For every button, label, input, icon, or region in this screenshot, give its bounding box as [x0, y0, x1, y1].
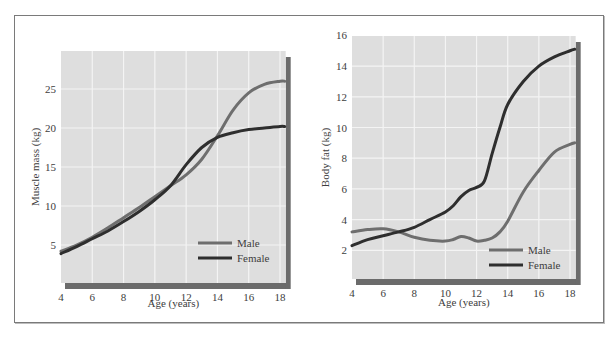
x-tick-label: 16: [243, 291, 255, 303]
x-tick-label: 8: [412, 287, 418, 299]
y-axis-label: Body fat (kg): [319, 128, 332, 188]
x-tick-label: 14: [212, 291, 224, 303]
x-tick-label: 6: [90, 291, 96, 303]
legend-label-female: Female: [528, 259, 560, 271]
legend-label-male: Male: [528, 244, 551, 256]
plot-area: [352, 36, 576, 279]
y-tick-label: 4: [342, 214, 348, 226]
y-tick-label: 25: [45, 83, 57, 95]
legend-label-female: Female: [237, 252, 269, 264]
x-tick-label: 4: [58, 291, 64, 303]
plot-shadow-bottom: [356, 279, 580, 285]
x-tick-label: 18: [565, 287, 577, 299]
y-tick-label: 2: [342, 244, 348, 256]
plot-shadow-right: [576, 42, 581, 285]
x-tick-label: 4: [349, 287, 355, 299]
y-tick-label: 8: [342, 152, 348, 164]
plot-shadow-right: [286, 57, 291, 289]
y-axis-label: Muscle mass (kg): [29, 128, 42, 207]
y-tick-label: 5: [51, 239, 57, 251]
y-tick-label: 10: [336, 122, 348, 134]
plot-shadow-bottom: [65, 283, 290, 289]
muscle-mass-chart: 4681012141618510152025Age (years)Muscle …: [29, 51, 291, 310]
y-tick-label: 12: [336, 91, 347, 103]
x-tick-label: 14: [502, 287, 514, 299]
x-tick-label: 16: [533, 287, 545, 299]
x-tick-label: 6: [380, 287, 386, 299]
x-tick-label: 8: [121, 291, 127, 303]
x-tick-label: 18: [275, 291, 287, 303]
body-fat-chart: 4681012141618246810121416Age (years)Body…: [319, 29, 581, 309]
x-axis-label: Age (years): [148, 297, 200, 310]
y-tick-label: 15: [45, 161, 57, 173]
y-tick-label: 6: [342, 183, 348, 195]
y-tick-label: 20: [45, 122, 57, 134]
y-tick-label: 10: [45, 200, 57, 212]
y-tick-label: 16: [336, 29, 348, 41]
charts-canvas: 4681012141618510152025Age (years)Muscle …: [0, 0, 612, 344]
legend-label-male: Male: [237, 237, 260, 249]
y-tick-label: 14: [336, 60, 348, 72]
x-axis-label: Age (years): [438, 296, 490, 309]
